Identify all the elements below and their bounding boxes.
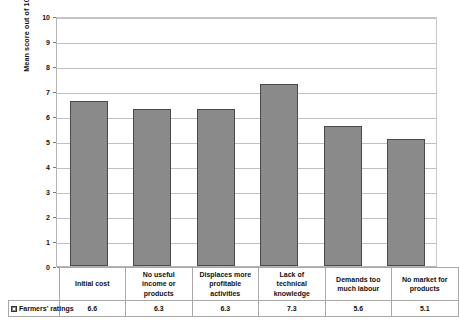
- category-cell: Displaces moreprofitableactivities: [192, 268, 259, 301]
- y-tick-mark-2: [53, 217, 56, 218]
- category-label-line: technical: [260, 279, 324, 288]
- bar-slot: [184, 18, 248, 266]
- value-cell: 5.6: [325, 301, 392, 317]
- legend-swatch-icon: [11, 306, 17, 312]
- bar: [260, 84, 298, 267]
- y-tick-label-7: 7: [4, 89, 50, 96]
- bar-slot: [121, 18, 185, 266]
- y-tick-label-5: 5: [4, 139, 50, 146]
- category-cell: No usefulincome orproducts: [126, 268, 193, 301]
- category-label-line: much labour: [327, 284, 391, 293]
- category-label-line: Lack of: [260, 270, 324, 279]
- legend-label: Farmers' ratings: [19, 305, 74, 312]
- y-tick-label-6: 6: [4, 114, 50, 121]
- bar-slot: [57, 18, 121, 266]
- category-label-line: activities: [194, 289, 258, 298]
- bar: [324, 126, 362, 266]
- table-row-values: Farmers' ratings 6.66.36.37.35.65.1: [9, 301, 459, 317]
- y-tick-label-8: 8: [4, 64, 50, 71]
- plot-area: [56, 17, 437, 267]
- y-tick-label-2: 2: [4, 214, 50, 221]
- table-row-categories: Initial costNo usefulincome orproductsDi…: [9, 268, 459, 301]
- y-tick-mark-8: [53, 67, 56, 68]
- category-label-line: products: [393, 284, 457, 293]
- y-tick-mark-6: [53, 117, 56, 118]
- category-label-line: products: [127, 289, 191, 298]
- y-tick-label-3: 3: [4, 189, 50, 196]
- y-tick-mark-10: [53, 17, 56, 18]
- category-cell: Initial cost: [59, 268, 126, 301]
- y-tick-label-9: 9: [4, 39, 50, 46]
- category-label-line: income or: [127, 279, 191, 288]
- category-cell: No market forproducts: [392, 268, 459, 301]
- table-corner-cell: [9, 268, 60, 301]
- legend-entry: Farmers' ratings: [9, 301, 60, 317]
- bar-slot: [311, 18, 375, 266]
- category-label-line: No market for: [393, 275, 457, 284]
- category-label-line: Initial cost: [61, 279, 125, 288]
- bar-slot: [375, 18, 439, 266]
- bar: [133, 109, 171, 267]
- category-label-line: profitable: [194, 279, 258, 288]
- category-cell: Lack oftechnicalknowledge: [259, 268, 326, 301]
- value-cell: 6.3: [192, 301, 259, 317]
- category-label-line: Displaces more: [194, 270, 258, 279]
- bar-slot: [248, 18, 312, 266]
- value-cell: 5.1: [392, 301, 459, 317]
- y-tick-mark-4: [53, 167, 56, 168]
- y-tick-mark-5: [53, 142, 56, 143]
- category-label-line: knowledge: [260, 289, 324, 298]
- category-label-line: Demands too: [327, 275, 391, 284]
- data-table: Initial costNo usefulincome orproductsDi…: [8, 267, 459, 317]
- bars-group: [57, 18, 436, 266]
- y-tick-mark-3: [53, 192, 56, 193]
- y-tick-label-10: 10: [4, 14, 50, 21]
- y-tick-mark-9: [53, 42, 56, 43]
- y-tick-mark-7: [53, 92, 56, 93]
- category-label-line: No useful: [127, 270, 191, 279]
- bar: [70, 101, 108, 266]
- y-tick-label-4: 4: [4, 164, 50, 171]
- bar: [387, 139, 425, 267]
- y-tick-mark-1: [53, 242, 56, 243]
- y-tick-label-1: 1: [4, 239, 50, 246]
- value-cell: 7.3: [259, 301, 326, 317]
- category-cell: Demands toomuch labour: [325, 268, 392, 301]
- bar: [197, 109, 235, 267]
- value-cell: 6.3: [126, 301, 193, 317]
